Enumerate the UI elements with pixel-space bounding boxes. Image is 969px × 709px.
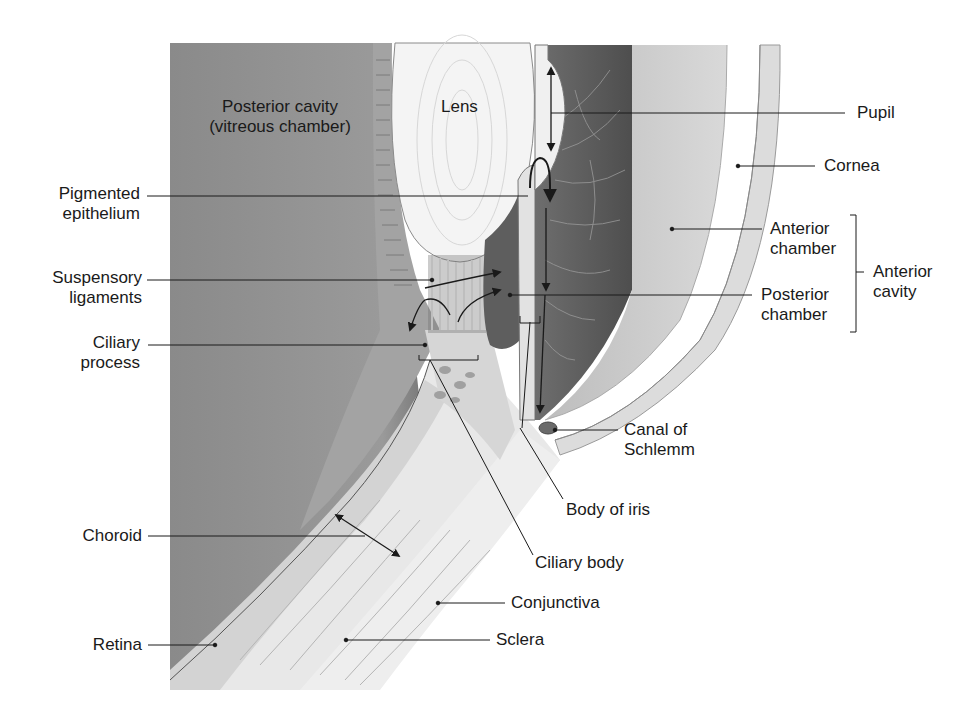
label-anterior-chamber: Anterior chamber (770, 219, 836, 259)
label-body-of-iris: Body of iris (566, 500, 650, 520)
label-cornea: Cornea (824, 156, 880, 176)
label-ciliary-process: Ciliary process (40, 333, 140, 373)
eye-illustration (0, 0, 969, 709)
label-sclera: Sclera (496, 630, 544, 650)
label-pigmented-epithelium: Pigmented epithelium (40, 184, 140, 224)
label-lens: Lens (441, 97, 478, 117)
label-posterior-cavity: Posterior cavity (vitreous chamber) (190, 97, 370, 137)
label-conjunctiva: Conjunctiva (511, 593, 600, 613)
label-ciliary-body: Ciliary body (535, 553, 624, 573)
label-posterior-chamber: Posterior chamber (761, 285, 829, 325)
label-suspensory-ligaments: Suspensory ligaments (30, 268, 142, 308)
label-choroid: Choroid (40, 526, 142, 546)
label-pupil: Pupil (857, 103, 895, 123)
label-anterior-cavity: Anterior cavity (873, 262, 933, 302)
label-retina: Retina (40, 635, 142, 655)
eye-anatomy-diagram: Posterior cavity (vitreous chamber) Lens… (0, 0, 969, 709)
label-canal-of-schlemm: Canal of Schlemm (624, 420, 695, 460)
